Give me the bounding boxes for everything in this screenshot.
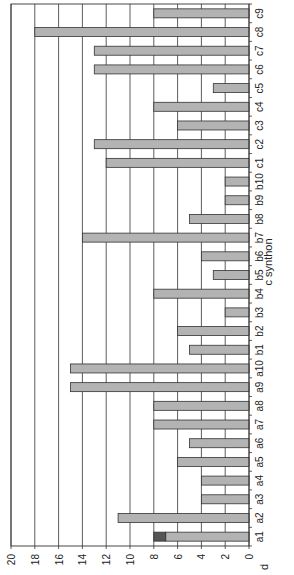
category-label-c1: c1	[254, 157, 265, 168]
bar-b3	[225, 308, 249, 317]
category-label-c8: c8	[254, 26, 265, 37]
bar-b2	[178, 327, 249, 336]
bar-c5	[213, 84, 249, 93]
category-label-c3: c3	[254, 120, 265, 131]
category-label-c6: c6	[254, 64, 265, 75]
bar-a3	[201, 495, 249, 504]
bar-c3	[178, 121, 249, 130]
category-label-a3: a3	[254, 493, 265, 505]
category-label-a8: a8	[254, 400, 265, 412]
value-tick-label: 10	[125, 554, 136, 566]
bar-b9	[225, 196, 249, 205]
category-label-a6: a6	[254, 437, 265, 449]
category-label-a4: a4	[254, 475, 265, 487]
bar-a1	[166, 532, 249, 541]
bar-c6	[94, 65, 249, 74]
bar-b7	[82, 233, 249, 242]
bars	[35, 9, 249, 541]
value-tick-label: 14	[77, 554, 88, 566]
bar-a2	[118, 513, 249, 522]
bar-a1-stacked	[154, 532, 166, 541]
category-label-c4: c4	[254, 101, 265, 112]
category-label-b4: b4	[254, 288, 265, 300]
bar-c7	[94, 46, 249, 55]
bar-b1	[190, 345, 250, 354]
category-label-c2: c2	[254, 138, 265, 149]
category-label-a10: a10	[254, 360, 265, 377]
category-label-b1: b1	[254, 344, 265, 356]
bar-b6	[201, 252, 249, 261]
bar-b10	[225, 177, 249, 186]
category-label-c5: c5	[254, 82, 265, 93]
bar-a9	[71, 383, 250, 392]
value-tick-label: 4	[196, 554, 207, 560]
bar-c2	[94, 140, 249, 149]
bar-c9	[154, 9, 249, 18]
value-axis-ticks: 02468101214161820	[6, 546, 255, 565]
bar-a8	[154, 401, 249, 410]
category-label-a2: a2	[254, 512, 265, 524]
bar-a10	[71, 364, 250, 373]
category-label-b10: b10	[254, 173, 265, 190]
category-label-b3: b3	[254, 306, 265, 318]
category-label-b2: b2	[254, 325, 265, 337]
category-label-b9: b9	[254, 194, 265, 206]
bar-c1	[106, 158, 249, 167]
bar-a7	[154, 420, 249, 429]
bar-a6	[190, 439, 250, 448]
bar-c8	[35, 28, 249, 37]
value-tick-label: 16	[54, 554, 65, 566]
value-tick-label: 0	[244, 554, 255, 560]
bar-b4	[154, 289, 249, 298]
category-label-c9: c9	[254, 8, 265, 19]
value-tick-label: 8	[149, 554, 160, 560]
value-tick-label: 2	[220, 554, 231, 560]
category-label-a1: a1	[254, 531, 265, 543]
value-tick-label: 18	[30, 554, 41, 566]
category-label-a5: a5	[254, 456, 265, 468]
bar-c4	[154, 102, 249, 111]
category-label-b8: b8	[254, 213, 265, 225]
bar-chart: 02468101214161820 a1a2a3a4a5a6a7a8a9a10b…	[0, 0, 294, 575]
value-axis-title: d	[258, 564, 270, 570]
bar-a5	[178, 457, 249, 466]
value-tick-label: 12	[101, 554, 112, 566]
bar-b5	[213, 271, 249, 280]
value-tick-label: 20	[6, 554, 17, 566]
bar-b8	[190, 214, 250, 223]
value-tick-label: 6	[173, 554, 184, 560]
bar-a4	[201, 476, 249, 485]
category-axis-title: c synthon	[262, 238, 274, 285]
category-label-a9: a9	[254, 381, 265, 393]
category-label-a7: a7	[254, 419, 265, 431]
category-label-c7: c7	[254, 45, 265, 56]
